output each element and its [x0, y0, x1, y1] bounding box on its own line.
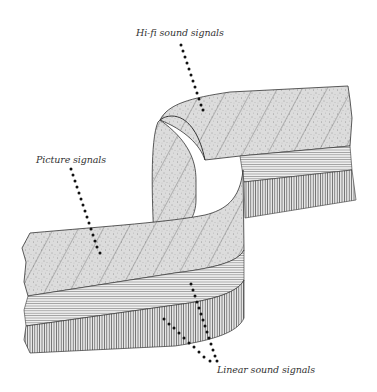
- picture-signals-label: Picture signals: [36, 154, 106, 165]
- hifi-sound-label: Hi-fi sound signals: [136, 27, 224, 38]
- tape-illustration: [0, 0, 377, 392]
- lower-tape-section: [22, 170, 244, 353]
- linear-sound-label: Linear sound signals: [217, 364, 315, 375]
- tape-diagram: Hi-fi sound signals Picture signals Line…: [0, 0, 377, 392]
